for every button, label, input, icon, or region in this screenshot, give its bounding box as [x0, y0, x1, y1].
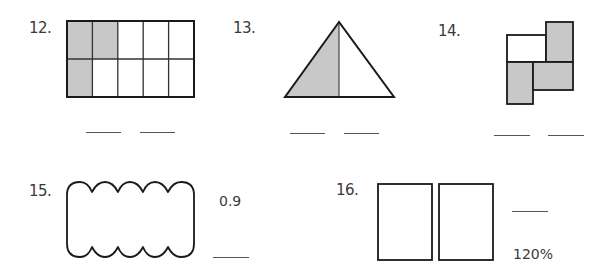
part-white	[507, 35, 546, 62]
answer-blank-12b[interactable]	[140, 132, 175, 133]
grid-cell-shaded	[67, 59, 92, 97]
answer-blank-13b[interactable]	[344, 133, 379, 134]
answer-blank-15[interactable]	[213, 257, 249, 258]
figure-15-scalloped	[67, 182, 194, 257]
answer-blank-14b[interactable]	[548, 135, 584, 136]
grid-cell-shaded	[67, 21, 92, 59]
figures-canvas	[0, 0, 611, 276]
part-shaded	[533, 62, 573, 90]
figure-16-rect-left	[378, 184, 432, 260]
answer-blank-13a[interactable]	[290, 133, 325, 134]
figure-12-grid	[67, 21, 194, 97]
grid-cell-shaded	[92, 21, 117, 59]
figure-16-rect-right	[439, 184, 493, 260]
given-value-16: 120%	[513, 246, 553, 262]
figure-13-triangle	[285, 22, 394, 97]
part-shaded	[546, 22, 573, 62]
given-value-15: 0.9	[219, 193, 241, 209]
answer-blank-16[interactable]	[512, 211, 548, 212]
answer-blank-12a[interactable]	[86, 132, 121, 133]
figure-14-composite	[507, 22, 573, 104]
answer-blank-14a[interactable]	[494, 135, 530, 136]
part-shaded	[507, 62, 533, 104]
